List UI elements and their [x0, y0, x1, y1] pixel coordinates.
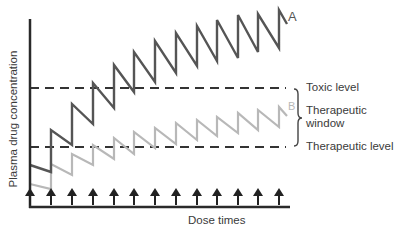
dose-arrow-icon — [150, 188, 160, 205]
dose-arrow-icon — [212, 188, 222, 205]
dose-arrow-icon — [192, 188, 202, 205]
dose-arrow-icon — [253, 188, 263, 205]
dose-arrow-icon — [274, 188, 284, 205]
dose-arrows — [25, 188, 284, 205]
therapeutic-window-label-line1: Therapeutic — [306, 104, 367, 117]
dose-arrow-icon — [109, 188, 119, 205]
dose-arrow-icon — [88, 188, 98, 205]
dose-arrow-icon — [171, 188, 181, 205]
toxic-level-label: Toxic level — [306, 81, 359, 94]
therapeutic-window-label-line2: window — [306, 117, 344, 130]
dose-arrow-icon — [129, 188, 139, 205]
dose-arrow-icon — [67, 188, 77, 205]
y-axis-label: Plasma drug concentration — [7, 44, 19, 194]
x-axis-label: Dose times — [188, 214, 246, 227]
series-b-label: B — [288, 100, 295, 113]
therapeutic-window-brace — [294, 89, 302, 146]
dose-arrow-icon — [25, 188, 35, 205]
dose-arrow-icon — [233, 188, 243, 205]
dose-arrow-icon — [46, 188, 56, 205]
series-a-label: A — [288, 10, 297, 23]
therapeutic-level-label: Therapeutic level — [306, 140, 394, 153]
